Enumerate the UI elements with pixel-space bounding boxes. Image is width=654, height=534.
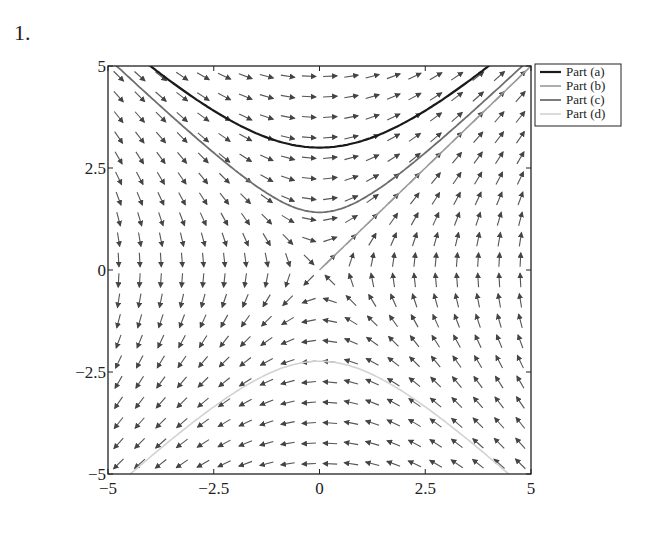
field-arrow — [431, 173, 440, 184]
field-arrow — [434, 233, 438, 247]
field-arrow — [387, 74, 400, 79]
field-arrow — [519, 314, 523, 328]
field-arrow — [203, 253, 204, 267]
field-arrow — [260, 155, 273, 161]
y-tick-label: −2.5 — [75, 363, 106, 382]
field-arrow — [135, 418, 144, 428]
field-arrow — [496, 172, 503, 184]
field-arrow — [198, 113, 209, 121]
field-arrow — [497, 314, 501, 327]
curve-parta — [108, 32, 531, 148]
field-arrow — [474, 397, 483, 408]
field-arrow — [282, 215, 294, 222]
field-arrow — [451, 460, 463, 468]
x-tick-label: 5 — [527, 479, 536, 498]
field-arrow — [222, 233, 226, 246]
field-arrow — [323, 298, 336, 302]
field-arrow — [518, 335, 523, 348]
field-arrow — [135, 92, 145, 102]
field-arrow — [366, 74, 380, 78]
field-arrow — [516, 418, 525, 429]
field-arrow — [411, 315, 418, 327]
field-arrow — [433, 213, 439, 226]
field-arrow — [155, 459, 166, 468]
field-arrow — [239, 399, 251, 406]
field-arrow — [387, 94, 400, 99]
field-arrow — [369, 295, 376, 307]
field-arrow — [239, 441, 252, 446]
field-arrow — [495, 418, 504, 428]
field-arrow — [197, 460, 209, 467]
field-arrow — [302, 402, 316, 403]
field-arrow — [344, 75, 358, 77]
field-arrow — [265, 273, 268, 287]
field-arrow — [474, 377, 482, 388]
field-arrow — [430, 93, 442, 101]
field-arrow — [286, 253, 290, 266]
field-arrow — [516, 132, 524, 144]
field-arrow — [199, 173, 208, 184]
field-arrow — [241, 336, 251, 346]
field-arrow — [135, 72, 145, 81]
x-tick-label: −2.5 — [198, 479, 229, 498]
field-arrow — [496, 356, 503, 368]
field-arrow — [178, 377, 187, 388]
field-arrow — [262, 316, 272, 326]
field-arrow — [281, 176, 294, 180]
field-arrow — [180, 294, 183, 308]
field-arrow — [116, 355, 122, 368]
field-arrow — [473, 418, 483, 428]
field-arrow — [516, 397, 524, 409]
field-arrow — [302, 137, 316, 138]
field-arrow — [323, 320, 337, 323]
field-arrow — [201, 294, 205, 308]
field-arrow — [323, 463, 337, 464]
field-arrow — [517, 172, 523, 185]
field-arrow — [477, 294, 480, 308]
field-arrow — [302, 340, 316, 342]
field-arrow — [451, 92, 462, 101]
field-arrow — [344, 136, 358, 139]
field-arrow — [518, 192, 523, 205]
field-arrow — [369, 233, 376, 245]
field-arrow — [115, 376, 122, 388]
field-arrow — [224, 273, 226, 287]
field-arrow — [454, 314, 459, 327]
field-arrow — [435, 273, 436, 287]
field-arrow — [475, 356, 482, 368]
field-arrow — [371, 273, 374, 287]
field-arrow — [177, 132, 187, 142]
field-arrow — [114, 91, 123, 101]
field-arrow — [519, 232, 521, 246]
field-arrow — [181, 273, 182, 287]
field-arrow — [366, 95, 379, 99]
field-arrow — [366, 441, 379, 445]
field-arrow — [344, 422, 358, 425]
field-arrow — [156, 418, 166, 428]
field-arrow — [115, 152, 122, 164]
field-arrow — [203, 273, 204, 287]
field-arrow — [409, 419, 421, 426]
field-arrow — [452, 112, 463, 121]
field-arrow — [475, 335, 481, 348]
field-arrow — [261, 358, 273, 365]
field-arrow — [517, 376, 524, 388]
field-arrow — [451, 72, 463, 80]
field-arrow — [323, 177, 337, 179]
field-arrow — [474, 132, 483, 143]
field-arrow — [117, 212, 121, 226]
field-arrow — [243, 294, 249, 307]
field-arrow — [366, 379, 379, 385]
legend-label: Part (b) — [566, 78, 605, 93]
field-arrow — [452, 418, 463, 427]
field-arrow — [366, 462, 380, 466]
field-arrow — [158, 192, 164, 205]
field-arrow — [137, 192, 142, 205]
field-arrow — [519, 212, 523, 226]
field-arrow — [499, 273, 500, 287]
field-arrow — [517, 355, 523, 368]
field-arrow — [178, 152, 187, 163]
field-arrow — [302, 463, 316, 464]
field-arrow — [408, 440, 420, 447]
field-arrow — [431, 356, 440, 367]
